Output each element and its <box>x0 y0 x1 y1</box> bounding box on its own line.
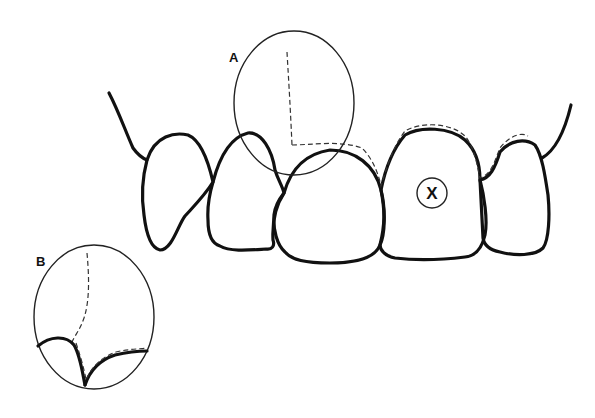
tooth-2 <box>208 133 284 250</box>
gingival-line-right <box>542 105 571 158</box>
inset-b-dashed-margin <box>76 343 147 380</box>
tooth-5 <box>480 141 549 255</box>
inset-a-dashed-line <box>287 52 292 145</box>
inset-b-tooth-right <box>85 351 147 385</box>
inset-b-label: B <box>36 254 45 269</box>
tooth-1 <box>143 134 213 250</box>
inset-a-label: A <box>229 50 239 65</box>
inset-circle-a <box>234 31 354 175</box>
gingival-line-left <box>109 93 147 160</box>
tooth-3 <box>274 150 384 263</box>
dental-diagram: A X B <box>0 0 595 418</box>
marked-tooth-label: X <box>426 184 438 203</box>
inset-b-dashed-line <box>72 253 89 342</box>
